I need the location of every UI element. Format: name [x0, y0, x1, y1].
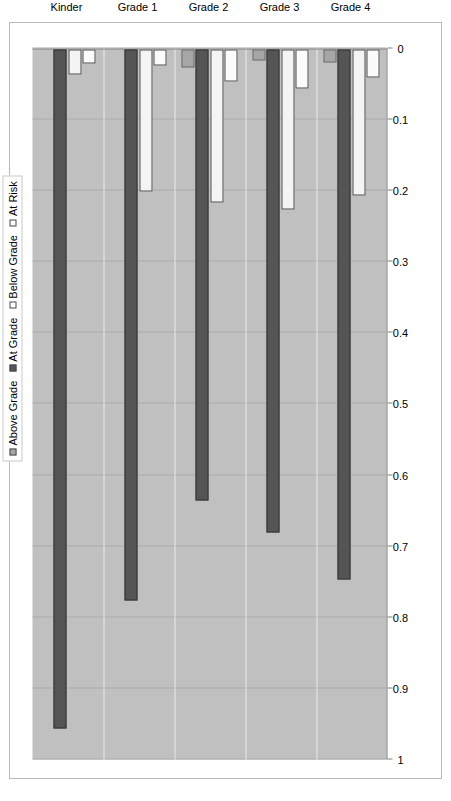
bar-at-risk — [153, 49, 166, 65]
value-tick-label: 0.4 — [380, 326, 420, 338]
bar-group — [103, 49, 174, 759]
legend-swatch-icon — [9, 301, 16, 308]
bar-at-grade — [266, 49, 279, 532]
value-tick-label: 0.2 — [380, 184, 420, 196]
chart-legend: Above GradeAt GradeBelow GradeAt Risk — [2, 175, 22, 461]
legend-item: At Risk — [6, 181, 18, 226]
bar-below-grade — [68, 49, 81, 74]
value-tick-label: 0.7 — [380, 540, 420, 552]
bar-at-grade — [53, 49, 66, 728]
legend-swatch-icon — [9, 364, 16, 371]
bar-group — [174, 49, 245, 759]
bar-below-grade — [210, 49, 223, 202]
legend-label: At Grade — [6, 317, 18, 361]
value-tick-label: 1 — [380, 753, 420, 765]
bar-group — [316, 49, 387, 759]
legend-item: Above Grade — [6, 380, 18, 455]
bar-below-grade — [281, 49, 294, 209]
gridline — [32, 47, 386, 48]
chart-canvas: Above GradeAt GradeBelow GradeAt Risk 10… — [0, 0, 451, 801]
bar-above-grade — [323, 49, 336, 62]
legend-swatch-icon — [9, 219, 16, 226]
legend-label: Above Grade — [6, 380, 18, 445]
value-tick-label: 0.5 — [380, 398, 420, 410]
value-tick-label: 0.3 — [380, 255, 420, 267]
category-label: Kinder — [31, 0, 101, 12]
bar-group — [245, 49, 316, 759]
chart-rotation-wrapper: Above GradeAt GradeBelow GradeAt Risk 10… — [0, 0, 451, 801]
value-tick-label: 0.6 — [380, 469, 420, 481]
bar-at-grade — [195, 49, 208, 500]
category-label: Grade 2 — [173, 0, 243, 12]
category-label: Grade 1 — [102, 0, 172, 12]
bar-at-grade — [337, 49, 350, 579]
bar-below-grade — [139, 49, 152, 191]
bar-above-grade — [181, 49, 194, 67]
bar-at-risk — [366, 49, 379, 77]
chart-page: Above GradeAt GradeBelow GradeAt Risk 10… — [0, 0, 451, 801]
bar-at-risk — [82, 49, 95, 63]
bar-at-grade — [124, 49, 137, 600]
bar-below-grade — [352, 49, 365, 195]
legend-label: At Risk — [6, 181, 18, 216]
value-tick-label: 0 — [380, 42, 420, 54]
legend-label: Below Grade — [6, 235, 18, 299]
legend-item: Below Grade — [6, 235, 18, 309]
category-label: Grade 3 — [244, 0, 314, 12]
value-tick-label: 0.8 — [380, 611, 420, 623]
bar-at-risk — [295, 49, 308, 88]
category-label: Grade 4 — [315, 0, 385, 12]
plot-area — [32, 48, 387, 759]
value-tick-label: 0.1 — [380, 113, 420, 125]
legend-item: At Grade — [6, 317, 18, 371]
legend-swatch-icon — [9, 448, 16, 455]
value-tick-label: 0.9 — [380, 682, 420, 694]
bar-at-risk — [224, 49, 237, 81]
bar-group — [32, 49, 103, 759]
bar-above-grade — [252, 49, 265, 60]
